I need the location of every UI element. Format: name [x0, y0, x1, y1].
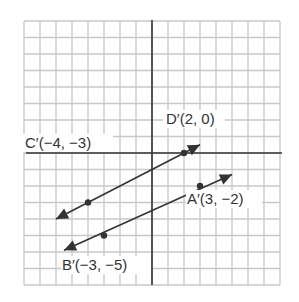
point-c-prime — [85, 199, 91, 205]
point-b-prime — [101, 232, 107, 238]
coordinate-plane: C′(−4, −3) D′(2, 0) A′(3, −2) B′(−3, −5) — [0, 0, 299, 302]
label-a-prime: A′(3, −2) — [187, 190, 244, 207]
label-b-prime: B′(−3, −5) — [62, 256, 127, 273]
line-C-D — [56, 145, 200, 219]
label-c-prime: C′(−4, −3) — [25, 134, 91, 151]
point-d-prime — [181, 150, 187, 156]
point-a-prime — [197, 183, 203, 189]
label-d-prime: D′(2, 0) — [166, 110, 215, 127]
